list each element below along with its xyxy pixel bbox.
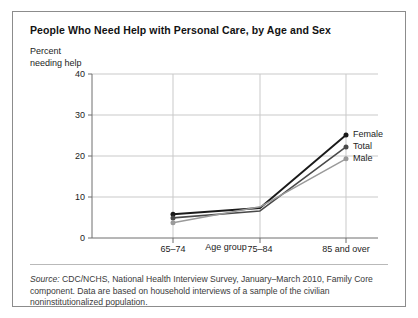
figure-panel: People Who Need Help with Personal Care,…	[12, 11, 406, 307]
data-point-male-0	[171, 220, 176, 225]
source-text: CDC/NCHS, National Health Interview Surv…	[30, 274, 373, 307]
x-axis-title: Age group	[13, 242, 405, 254]
y-axis-title: Percent needing help	[30, 46, 86, 69]
footer-divider	[30, 264, 388, 265]
data-point-male-2	[344, 156, 349, 161]
source-label: Source:	[30, 274, 60, 284]
y-tick-30: 30	[59, 110, 85, 120]
data-point-total-0	[171, 215, 176, 220]
legend-label-male: Male	[353, 153, 373, 163]
data-point-total-2	[344, 144, 349, 149]
source-note: Source: CDC/NCHS, National Health Interv…	[30, 274, 382, 309]
x-axis-title-text: Age group	[205, 242, 247, 252]
legend-label-total: Total	[353, 141, 372, 151]
y-tick-40: 40	[59, 69, 85, 79]
legend-label-female: Female	[353, 129, 383, 139]
plot-area: Percent needing help 40 30 20 10 0	[13, 46, 405, 262]
y-tick-10: 10	[59, 192, 85, 202]
chart-title: People Who Need Help with Personal Care,…	[30, 24, 331, 36]
data-point-female-2	[344, 133, 349, 138]
y-tick-20: 20	[59, 151, 85, 161]
